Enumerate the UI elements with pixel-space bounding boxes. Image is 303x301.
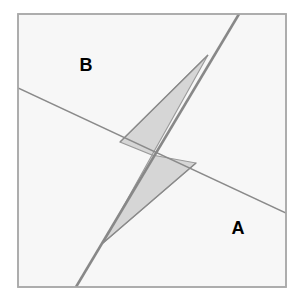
figure-container: B A: [0, 0, 303, 301]
region-label-a: A: [232, 218, 245, 238]
geometry-diagram: B A: [0, 0, 303, 301]
region-label-b: B: [80, 55, 93, 75]
